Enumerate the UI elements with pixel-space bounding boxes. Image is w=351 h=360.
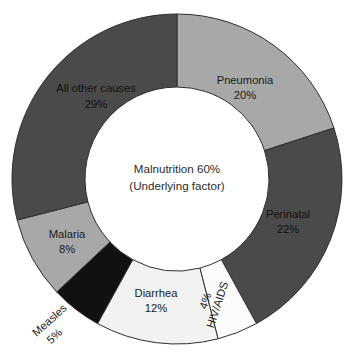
donut-chart: Pneumonia20%Perinatal22%HIV/AIDS4%Diarrh… — [0, 0, 351, 360]
slice-value-all-other-causes: 29% — [85, 98, 107, 110]
slice-label-malaria: Malaria — [49, 228, 86, 240]
slice-label-all-other-causes: All other causes — [56, 82, 136, 94]
donut-chart-svg: Pneumonia20%Perinatal22%HIV/AIDS4%Diarrh… — [0, 0, 351, 360]
center-label-line2: (Underlying factor) — [129, 179, 224, 192]
slice-label-diarrhea: Diarrhea — [135, 287, 179, 299]
slice-label-perinatal: Perinatal — [266, 208, 310, 220]
slice-label-pneumonia: Pneumonia — [217, 74, 274, 86]
slice-value-diarrhea: 12% — [145, 302, 167, 314]
center-label-line1: Malnutrition 60% — [134, 162, 220, 175]
slice-value-pneumonia: 20% — [234, 89, 256, 101]
slice-value-malaria: 8% — [59, 243, 75, 255]
slice-value-perinatal: 22% — [277, 223, 299, 235]
